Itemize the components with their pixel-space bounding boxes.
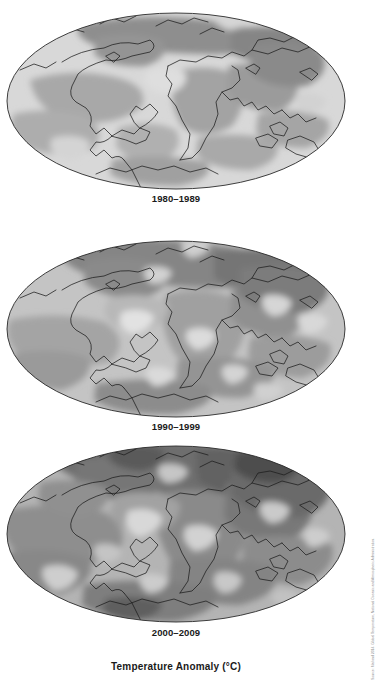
panel-caption-2000-2009: 2000–2009 <box>0 627 352 638</box>
colorbar-axis-title: Temperature Anomaly (°C) <box>0 661 352 672</box>
panel-caption-1990-1999: 1990–1999 <box>0 421 352 432</box>
source-credit: Source: Marland 2014. Global Temperature… <box>367 420 379 680</box>
map-panel-1990-1999 <box>0 238 352 420</box>
panel-caption-1980-1989: 1980–1989 <box>0 193 352 204</box>
source-credit-text: Source: Marland 2014. Global Temperature… <box>367 420 379 680</box>
world-map-1980-1989 <box>0 10 352 192</box>
temperature-anomaly-figure: 1980–1989 <box>0 0 379 680</box>
map-panel-1980-1989 <box>0 10 352 192</box>
map-panel-2000-2009 <box>0 443 352 625</box>
world-map-1990-1999 <box>0 238 352 420</box>
world-map-2000-2009 <box>0 443 352 625</box>
